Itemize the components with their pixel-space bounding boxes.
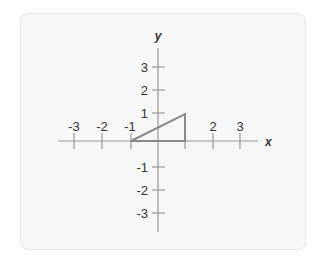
x-tick-label: 2 xyxy=(209,119,216,134)
y-tick-label: -3 xyxy=(136,206,148,221)
y-axis-label: y xyxy=(154,29,163,43)
y-tick-label: 1 xyxy=(141,106,148,121)
y-tick-label: 3 xyxy=(141,60,148,75)
y-tick-label: -1 xyxy=(136,160,148,175)
x-axis-label: x xyxy=(264,135,273,149)
coordinate-plane: -3 -2 -1 2 3 3 2 1 -1 -2 -3 x y xyxy=(0,0,321,262)
x-tick-label: -2 xyxy=(96,119,108,134)
y-tick-label: -2 xyxy=(136,183,148,198)
y-tick-label: 2 xyxy=(141,83,148,98)
x-tick-label: 3 xyxy=(236,119,243,134)
x-tick-label: -1 xyxy=(124,119,136,134)
x-tick-label: -3 xyxy=(68,119,80,134)
